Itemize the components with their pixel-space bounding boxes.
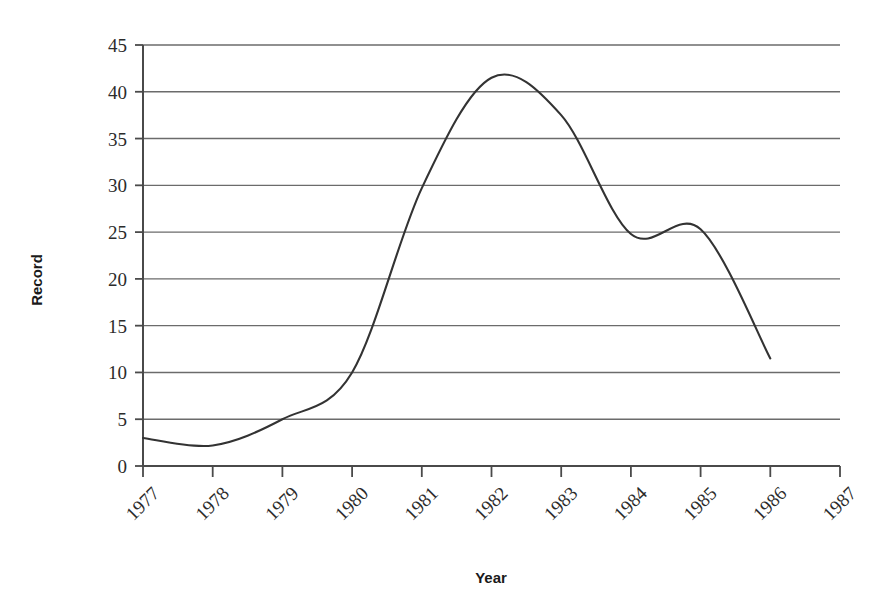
y-tick-label-15: 15	[108, 316, 127, 337]
y-tick-label-30: 30	[108, 175, 127, 196]
y-axis-title: Record	[28, 254, 45, 306]
y-tick-label-10: 10	[108, 362, 127, 383]
y-tick-label-35: 35	[108, 129, 127, 150]
chart-canvas: 051015202530354045 197719781979198019811…	[0, 0, 877, 606]
y-tick-label-45: 45	[108, 35, 127, 56]
y-tick-label-20: 20	[108, 269, 127, 290]
y-tick-label-5: 5	[118, 409, 128, 430]
x-axis-title: Year	[475, 569, 507, 586]
y-tick-label-25: 25	[108, 222, 127, 243]
line-chart: 051015202530354045 197719781979198019811…	[0, 0, 877, 606]
y-tick-label-40: 40	[108, 82, 127, 103]
y-tick-label-0: 0	[118, 456, 128, 477]
